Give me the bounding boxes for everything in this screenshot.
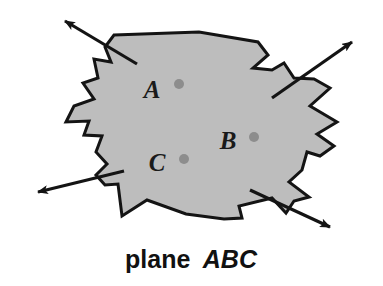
plane-polygon	[66, 32, 337, 219]
caption-prefix: plane	[125, 245, 190, 273]
caption-points-label: ABC	[202, 245, 258, 273]
plane-figure-svg: A B C plane ABC	[0, 0, 383, 286]
caption: plane ABC	[125, 245, 258, 273]
point-label-c: C	[149, 149, 166, 176]
point-label-b: B	[219, 127, 237, 154]
figure-container: A B C plane ABC	[0, 0, 383, 286]
point-label-a: A	[142, 76, 161, 103]
svg-text:plane ABC: plane ABC	[125, 245, 258, 273]
point-dot-a	[174, 79, 184, 89]
point-dot-b	[249, 132, 259, 142]
point-dot-c	[179, 154, 189, 164]
